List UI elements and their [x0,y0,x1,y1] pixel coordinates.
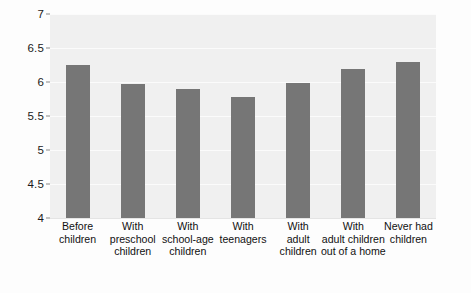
x-axis-tick-label: Beforechildren [59,220,96,245]
x-axis-label-line: children [59,233,96,246]
x-axis-label-line: children [280,245,317,258]
x-axis-label-line: children [384,233,433,246]
x-axis-tick-label: Withpreschoolchildren [110,220,156,258]
bar[interactable] [176,89,200,218]
x-axis-label-line: preschool [110,233,156,246]
bar-chart: 44.555.566.57 BeforechildrenWithpreschoo… [0,0,471,293]
x-axis-label-line: children [162,245,214,258]
bar[interactable] [66,65,90,218]
bar-slot [50,14,105,218]
x-axis-label-line: teenagers [219,233,266,246]
bar-slot [326,14,381,218]
x-axis-label-line: With [280,220,317,233]
x-axis-labels: BeforechildrenWithpreschoolchildrenWiths… [50,220,436,280]
x-axis-tick-label: Withteenagers [219,220,266,245]
x-axis-tick-label: Never hadchildren [384,220,433,245]
bar-slot [271,14,326,218]
x-axis-label-line: Never had [384,220,433,233]
x-axis-label-line: With [110,220,156,233]
bar-slot [105,14,160,218]
x-axis-tick-label: Withadult childrenout of a home [321,220,386,258]
x-axis-label-line: With [219,220,266,233]
bar[interactable] [286,83,310,218]
y-axis-tick-label: 5.5 [27,110,44,122]
y-axis-tick-label: 4 [37,212,44,224]
x-axis-label-line: school-age [162,233,214,246]
x-axis-label-line: With [321,220,386,233]
gridline [50,218,436,219]
x-axis-label-line: With [162,220,214,233]
bar[interactable] [231,97,255,218]
x-axis-tick-label: Withschool-agechildren [162,220,214,258]
x-axis-tick-label: Withadultchildren [280,220,317,258]
plot-area [50,14,436,218]
x-axis-label-line: adult [280,233,317,246]
y-axis-tick-label: 7 [37,8,44,20]
x-axis-label-line: out of a home [321,245,386,258]
y-axis-tick-label: 4.5 [27,178,44,190]
bar-slot [215,14,270,218]
bar[interactable] [396,62,420,218]
x-axis-label-line: adult children [321,233,386,246]
bar[interactable] [341,69,365,218]
x-axis-label-line: Before [59,220,96,233]
bar[interactable] [121,84,145,218]
y-axis: 44.555.566.57 [0,0,50,232]
x-axis-label-line: children [110,245,156,258]
y-axis-tick-label: 6 [37,76,44,88]
bar-slot [381,14,436,218]
y-axis-tick-label: 5 [37,144,44,156]
bar-slot [160,14,215,218]
y-axis-tick-label: 6.5 [27,42,44,54]
